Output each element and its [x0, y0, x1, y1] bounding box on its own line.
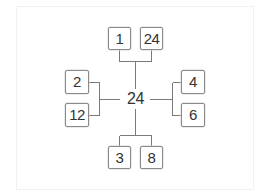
factor-box-left-bottom: 12	[65, 103, 89, 127]
factor-box-right-bottom: 6	[181, 103, 205, 127]
factor-box-right-top: 4	[181, 70, 205, 94]
factor-box-bottom-left: 3	[108, 146, 131, 169]
factor-box-top-left: 1	[108, 27, 131, 50]
factor-box-left-top: 2	[65, 70, 89, 94]
factor-box-top-right: 24	[140, 27, 163, 50]
factor-box-bottom-right: 8	[140, 146, 163, 169]
center-number: 24	[122, 89, 149, 109]
